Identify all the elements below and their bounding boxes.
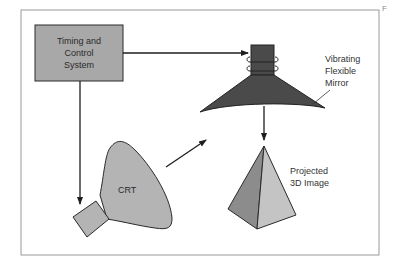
projected-image-label: Projected 3D Image bbox=[290, 165, 329, 189]
timing-control-label: Timing and Control System bbox=[35, 25, 123, 81]
diagram-stage: Timing and Control System CRT Vibrating … bbox=[0, 0, 394, 269]
mirror-leader-line bbox=[313, 90, 330, 104]
page-edge-fragment: F bbox=[382, 4, 387, 14]
crt-label: CRT bbox=[118, 184, 136, 196]
arrow-crt-to-mirror bbox=[166, 140, 206, 167]
mirror-label: Vibrating Flexible Mirror bbox=[325, 53, 360, 89]
vibrating-mirror bbox=[200, 75, 325, 112]
